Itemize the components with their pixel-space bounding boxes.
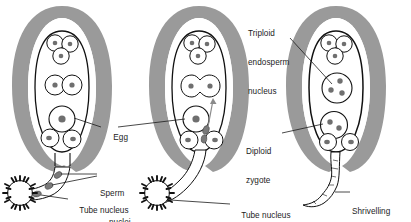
zygote-nucleus-dot	[327, 119, 332, 124]
label-tube-nucleus-panel1: Tube nucleus	[70, 196, 129, 222]
label-triploid-line3: nucleus	[248, 87, 289, 97]
antipodal-nucleus	[196, 54, 201, 59]
antipodal-nucleus	[190, 41, 195, 46]
label-tube-nucleus-panel2-text: Tube nucleus	[241, 211, 290, 220]
endosperm-nucleus-dot	[328, 87, 333, 92]
synergid-nucleus	[348, 140, 354, 144]
polar-nucleus-dot	[52, 82, 57, 87]
antipodal-nucleus	[205, 42, 210, 47]
label-triploid-line2: endosperm	[248, 58, 289, 68]
antipodal-nucleus	[53, 41, 58, 46]
synergid-nucleus	[46, 136, 52, 140]
synergid-nucleus	[185, 138, 191, 142]
antipodal-nucleus	[333, 54, 338, 59]
fertilisation-diagram: Egg Sperm nuclei Tube nucleus Tube nucle…	[0, 0, 411, 222]
pollen-grain-body	[8, 181, 33, 206]
antipodal-nucleus	[68, 42, 73, 47]
label-shrivel-line1: Shrivelling	[352, 207, 393, 217]
polar-nucleus-dot	[188, 83, 193, 88]
label-triploid-endosperm-nucleus: Triploid endosperm nucleus	[248, 10, 289, 116]
label-diploid-line2: zygote	[246, 176, 271, 186]
panel-3-ovule	[282, 6, 386, 207]
diagram-canvas	[0, 0, 411, 222]
label-diploid-line1: Diploid	[246, 147, 271, 157]
egg-nucleus	[192, 115, 199, 122]
polar-nucleus-dot	[207, 83, 212, 88]
synergid-nucleus	[70, 137, 76, 141]
egg-nucleus	[58, 115, 65, 122]
label-shrivelling-pollen-tube: Shrivelling pollen tube	[352, 188, 393, 222]
synergid-nucleus	[212, 138, 218, 142]
pollen-grain-body	[145, 181, 170, 206]
endosperm-nucleus-dot	[339, 90, 344, 95]
synergid-nucleus	[324, 140, 330, 144]
label-diploid-zygote: Diploid zygote	[246, 128, 271, 205]
antipodal-nucleus	[59, 54, 64, 59]
label-triploid-line1: Triploid	[248, 29, 289, 39]
panel-2-ovule	[118, 6, 249, 210]
label-egg: Egg	[104, 123, 128, 152]
antipodal-nucleus	[342, 42, 347, 47]
label-tube-nucleus-panel1-text: Tube nucleus	[79, 206, 128, 215]
panel-1-ovule	[3, 6, 112, 210]
endosperm-nucleus-dot	[337, 78, 342, 83]
label-egg-text: Egg	[113, 133, 128, 142]
polar-nucleus-dot	[69, 82, 74, 87]
leader-line-tube-nucleus-2	[170, 200, 230, 204]
antipodal-nucleus	[327, 41, 332, 46]
zygote-nucleus-dot	[336, 125, 341, 130]
